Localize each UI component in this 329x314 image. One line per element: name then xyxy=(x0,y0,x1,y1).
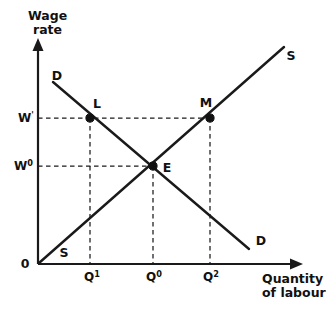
point-marker-l xyxy=(86,114,94,122)
curve-labels-group: D D S S xyxy=(52,48,296,260)
y-tick-w-zero-base: W xyxy=(14,159,27,173)
point-label-l: L xyxy=(93,96,101,111)
x-tick-q0-superscript: 0 xyxy=(156,269,162,279)
y-axis-arrow-icon xyxy=(33,38,44,51)
x-tick-q1-superscript: 1 xyxy=(94,269,100,279)
origin-label: 0 xyxy=(21,256,30,271)
x-axis-title-line2: of labour xyxy=(262,285,327,300)
y-axis-title: Wage rate xyxy=(28,8,67,37)
demand-label-bottom: D xyxy=(256,233,266,248)
y-tick-label-w-prime: W' xyxy=(18,110,34,126)
point-marker-e xyxy=(149,162,157,170)
y-axis-title-line2: rate xyxy=(33,22,62,37)
x-tick-labels-group: Q1 Q0 Q2 xyxy=(84,269,219,285)
y-tick-label-w-zero: W0 xyxy=(14,158,33,174)
x-axis-title: Quantity of labour xyxy=(262,271,327,300)
y-tick-w-zero-superscript: 0 xyxy=(27,158,33,168)
y-tick-w-prime-base: W xyxy=(18,111,31,125)
x-axis-title-line1: Quantity xyxy=(262,271,323,286)
y-tick-labels-group: W' W0 xyxy=(14,110,34,174)
x-tick-label-q2: Q2 xyxy=(203,269,219,285)
supply-demand-labour-market-diagram: D D S S L E M W' W0 Q1 Q0 xyxy=(0,0,329,314)
x-tick-label-q1: Q1 xyxy=(84,269,100,285)
curves-group xyxy=(39,47,284,263)
x-tick-q0-base: Q xyxy=(146,270,156,284)
x-tick-q2-superscript: 2 xyxy=(213,269,219,279)
x-tick-label-q0: Q0 xyxy=(146,269,162,285)
demand-label-top: D xyxy=(52,68,62,83)
x-axis-arrow-icon xyxy=(290,259,303,270)
x-tick-q2-base: Q xyxy=(203,270,213,284)
y-tick-w-prime-superscript: ' xyxy=(31,110,34,120)
supply-label-top: S xyxy=(286,48,295,63)
supply-curve xyxy=(39,47,284,263)
diagram-canvas: D D S S L E M W' W0 Q1 Q0 xyxy=(0,0,329,314)
point-markers-group xyxy=(86,114,214,170)
x-tick-q1-base: Q xyxy=(84,270,94,284)
point-marker-m xyxy=(206,114,214,122)
y-axis-title-line1: Wage xyxy=(28,8,67,23)
supply-label-bottom: S xyxy=(59,245,68,260)
point-label-m: M xyxy=(200,95,212,110)
point-label-e: E xyxy=(163,160,172,175)
